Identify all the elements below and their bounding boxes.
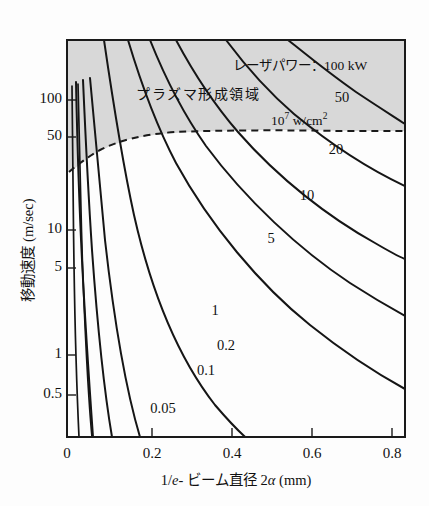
xtick-label-0-6: 0.6	[303, 445, 322, 461]
xtick-label-0: 0	[63, 445, 71, 461]
curve-label-50: 50	[335, 89, 350, 105]
ytick-label-1: 1	[55, 345, 63, 361]
ytick-label-100: 100	[40, 90, 63, 106]
curve-label-10: 10	[300, 187, 315, 203]
curve-label-5: 5	[267, 230, 274, 246]
y-axis-title: 移動速度 (m/sec)	[20, 198, 37, 301]
legend-title-laser-power: レーザパワー：100 kW	[233, 58, 367, 73]
plasma-region-label: プラズマ形成領域	[136, 86, 260, 102]
xtick-label-0-8: 0.8	[383, 445, 402, 461]
x-axis-ticks	[152, 428, 392, 437]
x-axis-title: 1/e- ビーム直径 2α (mm)	[161, 472, 312, 489]
curve-label-0-1: 0.1	[197, 362, 215, 378]
ytick-label-50: 50	[47, 127, 62, 143]
curve-label-1: 1	[211, 302, 218, 318]
xtick-label-0-2: 0.2	[143, 445, 162, 461]
ytick-label-10: 10	[47, 220, 62, 236]
ytick-label-5: 5	[55, 258, 63, 274]
chart-svg: 100 50 10 5 1 0.5 0 0.2 0.4 0.6 0.8 1/e-…	[0, 0, 429, 506]
ytick-label-0-5: 0.5	[43, 385, 62, 401]
curve-label-0-05: 0.05	[150, 400, 175, 416]
curve-label-0-2: 0.2	[217, 337, 235, 353]
chart-figure: 100 50 10 5 1 0.5 0 0.2 0.4 0.6 0.8 1/e-…	[0, 0, 429, 506]
xtick-label-0-4: 0.4	[223, 445, 242, 461]
threshold-label: 107 w/cm2	[271, 111, 328, 128]
curve-label-20: 20	[329, 141, 344, 157]
